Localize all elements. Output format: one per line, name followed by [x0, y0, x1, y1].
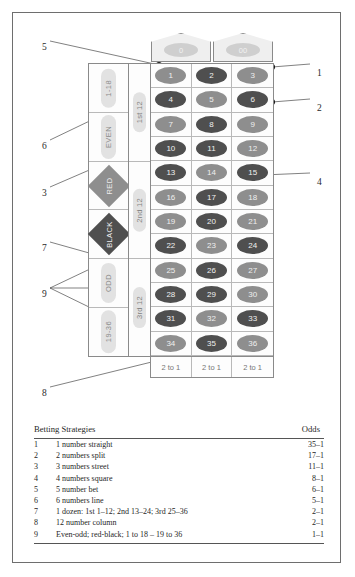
number-cell-26[interactable]: 26 [192, 259, 233, 283]
column-bet-3[interactable]: 2 to 1 [232, 357, 273, 377]
strategy-odds: 35–1 [282, 439, 324, 451]
zero-label-0: 0 [164, 43, 198, 57]
number-label-8: 8 [196, 116, 227, 133]
number-label-19: 19 [155, 213, 186, 230]
number-cell-28[interactable]: 28 [151, 283, 192, 307]
table-row: 55 number bet6–1 [34, 484, 324, 495]
outside-bet-odd[interactable]: ODD [89, 259, 128, 308]
zero-cell-0[interactable]: 0 [150, 33, 212, 63]
number-label-32: 32 [196, 310, 227, 327]
column-bet-1[interactable]: 2 to 1 [151, 357, 192, 377]
strategy-odds: 5–1 [282, 495, 324, 506]
dozen-cell-3[interactable]: 3rd 12 [129, 259, 150, 356]
number-label-3: 3 [237, 67, 268, 84]
diamond-black-icon: BLACK [87, 213, 129, 255]
outside-bet-label: RED [104, 177, 113, 194]
number-label-16: 16 [155, 189, 186, 206]
number-label-18: 18 [237, 189, 268, 206]
zero-shape-00: 00 [213, 33, 273, 62]
number-cell-22[interactable]: 22 [151, 234, 192, 258]
number-cell-13[interactable]: 13 [151, 161, 192, 185]
number-label-14: 14 [196, 164, 227, 181]
strategy-index: 4 [34, 473, 56, 484]
number-cell-29[interactable]: 29 [192, 283, 233, 307]
number-label-1: 1 [155, 67, 186, 84]
strategy-description: 6 numbers line [56, 495, 282, 506]
table-bottom-rule [34, 540, 324, 544]
table-row: 44 numbers square8–1 [34, 473, 324, 484]
table-header-row: Betting Strategies Odds [34, 420, 324, 439]
outside-bet-black[interactable]: BLACK [89, 210, 128, 259]
number-label-20: 20 [196, 213, 227, 230]
number-cell-11[interactable]: 11 [192, 137, 233, 161]
number-cell-7[interactable]: 7 [151, 113, 192, 137]
dozen-label-3: 3rd 12 [133, 287, 146, 328]
number-cell-33[interactable]: 33 [232, 307, 273, 331]
number-cell-31[interactable]: 31 [151, 307, 192, 331]
number-cell-34[interactable]: 34 [151, 332, 192, 356]
number-label-22: 22 [155, 237, 186, 254]
number-cell-36[interactable]: 36 [232, 332, 273, 356]
number-cell-17[interactable]: 17 [192, 186, 233, 210]
number-cell-4[interactable]: 4 [151, 88, 192, 112]
number-label-7: 7 [155, 116, 186, 133]
number-cell-35[interactable]: 35 [192, 332, 233, 356]
number-label-13: 13 [155, 164, 186, 181]
outside-bet-1-18[interactable]: 1-18 [89, 64, 128, 113]
outside-bet-label: EVEN [101, 115, 116, 159]
outside-bet-even[interactable]: EVEN [89, 113, 128, 162]
number-cell-6[interactable]: 6 [232, 88, 273, 112]
number-cell-21[interactable]: 21 [232, 210, 273, 234]
number-cell-2[interactable]: 2 [192, 64, 233, 88]
zero-cell-00[interactable]: 00 [212, 33, 274, 63]
number-label-30: 30 [237, 286, 268, 303]
number-label-6: 6 [237, 91, 268, 108]
table-row: 9Even-odd; red-black; 1 to 18 – 19 to 36… [34, 529, 324, 540]
number-label-17: 17 [196, 189, 227, 206]
number-cell-14[interactable]: 14 [192, 161, 233, 185]
dozen-cell-2[interactable]: 2nd 12 [129, 162, 150, 260]
number-cell-20[interactable]: 20 [192, 210, 233, 234]
strategy-index: 2 [34, 450, 56, 461]
number-cell-8[interactable]: 8 [192, 113, 233, 137]
number-cell-1[interactable]: 1 [151, 64, 192, 88]
outside-bet-red[interactable]: RED [89, 162, 128, 211]
number-label-34: 34 [155, 335, 186, 352]
dozens-column: 1st 122nd 123rd 12 [128, 63, 150, 357]
strategy-index: 5 [34, 484, 56, 495]
number-cell-25[interactable]: 25 [151, 259, 192, 283]
outside-bet-label: ODD [101, 263, 116, 303]
number-label-9: 9 [237, 116, 268, 133]
callout-5: 5 [42, 42, 47, 52]
callout-7: 7 [42, 243, 47, 253]
outside-bet-label: BLACK [104, 221, 113, 248]
number-cell-5[interactable]: 5 [192, 88, 233, 112]
strategy-odds: 8–1 [282, 473, 324, 484]
number-cell-12[interactable]: 12 [232, 137, 273, 161]
outside-bet-19-36[interactable]: 19-36 [89, 308, 128, 356]
number-label-28: 28 [155, 286, 186, 303]
strategy-index: 1 [34, 439, 56, 451]
number-cell-27[interactable]: 27 [232, 259, 273, 283]
number-cell-3[interactable]: 3 [232, 64, 273, 88]
strategy-odds: 2–1 [282, 517, 324, 528]
number-cell-30[interactable]: 30 [232, 283, 273, 307]
number-cell-23[interactable]: 23 [192, 234, 233, 258]
number-cell-15[interactable]: 15 [232, 161, 273, 185]
strategy-index: 6 [34, 495, 56, 506]
strategy-index: 9 [34, 529, 56, 540]
number-cell-10[interactable]: 10 [151, 137, 192, 161]
number-label-12: 12 [237, 140, 268, 157]
number-cell-32[interactable]: 32 [192, 307, 233, 331]
number-cell-18[interactable]: 18 [232, 186, 273, 210]
strategy-index: 3 [34, 461, 56, 472]
column-bets-row: 2 to 12 to 12 to 1 [150, 357, 274, 378]
number-label-11: 11 [196, 140, 227, 157]
column-bet-2[interactable]: 2 to 1 [192, 357, 233, 377]
dozen-cell-1[interactable]: 1st 12 [129, 64, 150, 162]
number-cell-16[interactable]: 16 [151, 186, 192, 210]
number-cell-9[interactable]: 9 [232, 113, 273, 137]
number-label-36: 36 [237, 335, 268, 352]
number-cell-19[interactable]: 19 [151, 210, 192, 234]
number-cell-24[interactable]: 24 [232, 234, 273, 258]
